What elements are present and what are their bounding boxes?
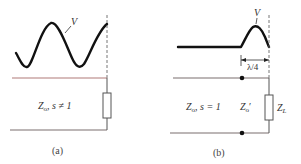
load-label: ZL	[277, 103, 286, 115]
caption-b: (b)	[213, 148, 225, 158]
load-resistor-a	[103, 93, 111, 118]
junction-dot-top	[240, 76, 245, 81]
line-label-b-rest: , s = 1	[195, 101, 221, 112]
transformer-label: Zo′	[240, 102, 251, 114]
panel-b	[170, 15, 273, 135]
load-resistor-b	[265, 95, 273, 120]
wave-label-a: V	[71, 17, 77, 27]
wave-label-pointer-b	[256, 18, 257, 24]
wave-label-pointer-a	[65, 26, 71, 33]
voltage-wave-b	[178, 26, 269, 47]
voltage-wave-a	[16, 23, 107, 67]
wave-label-b: V	[254, 8, 260, 18]
load-label-sub: L	[283, 107, 287, 115]
quarter-wave-label: λ/4	[247, 63, 258, 72]
caption-a: (a)	[52, 146, 63, 156]
junction-dot-bottom	[240, 131, 245, 136]
transformer-label-prime: ′	[249, 101, 251, 112]
diagram-canvas	[0, 0, 301, 164]
line-label-a: Zo, s ≠ 1	[38, 101, 71, 113]
line-label-a-rest: , s ≠ 1	[47, 100, 71, 111]
line-label-b: Zo, s = 1	[186, 102, 221, 114]
